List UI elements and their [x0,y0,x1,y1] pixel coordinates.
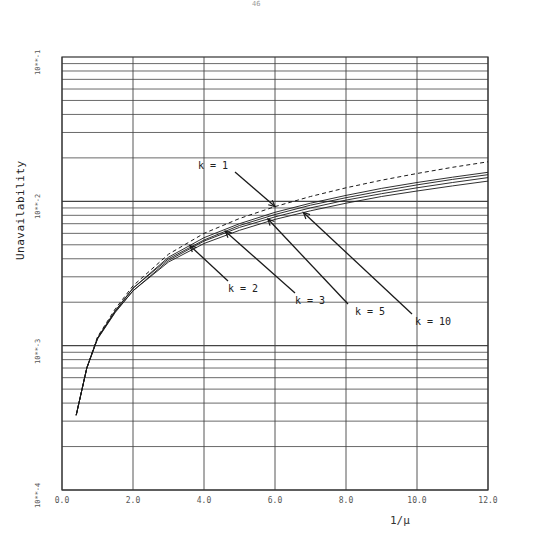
chart-plot-area [0,0,534,554]
annotation-arrows [190,172,412,314]
y-tick-label: 10**-1 [34,50,42,75]
annotation-k5: k = 5 [355,306,385,317]
annotation-k2: k = 2 [228,283,258,294]
annotation-k3: k = 3 [295,295,325,306]
x-tick-label: 12.0 [478,496,497,505]
x-tick-label: 4.0 [197,496,211,505]
y-tick-label: 10**-2 [34,194,42,219]
series-k2 [76,172,488,415]
x-tick-label: 0.0 [55,496,69,505]
y-axis-label: Unavailability [14,140,28,260]
data-series [76,162,488,415]
annotation-k10: k = 10 [415,316,451,327]
x-tick-label: 6.0 [268,496,282,505]
annotation-k1: k = 1 [198,160,228,171]
series-k1 [76,162,488,415]
series-k5 [76,178,488,416]
x-tick-label: 2.0 [126,496,140,505]
x-axis-label: 1/μ [390,514,410,527]
series-k10 [76,181,488,415]
y-tick-label: 10**-4 [34,483,42,508]
x-tick-label: 8.0 [339,496,353,505]
x-tick-label: 10.0 [407,496,426,505]
y-tick-label: 10**-3 [34,338,42,363]
grid-lines [62,57,488,490]
